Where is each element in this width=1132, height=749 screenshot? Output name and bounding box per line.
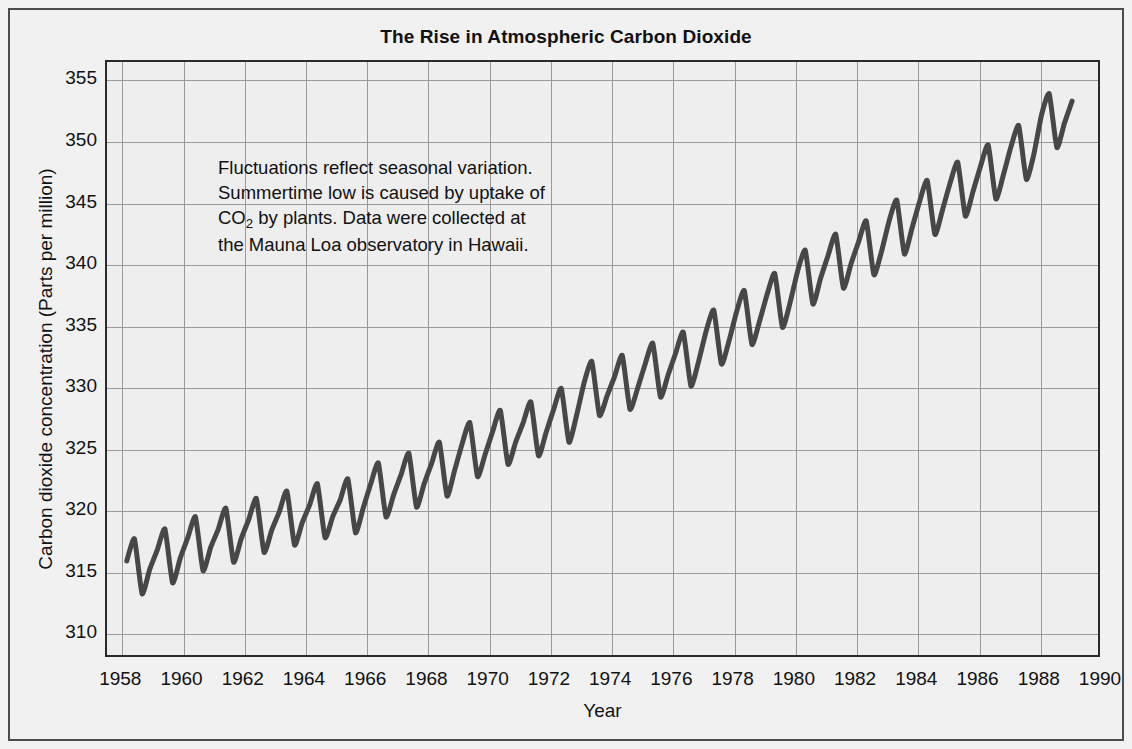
plot-area	[105, 60, 1100, 657]
y-axis-tick-labels: 310315320325330335340345350355	[0, 60, 97, 657]
y-tick-label: 345	[11, 191, 97, 213]
y-tick-label: 310	[11, 621, 97, 643]
x-tick-label: 1968	[405, 668, 447, 690]
x-tick-label: 1958	[99, 668, 141, 690]
annotation-line-3-rest: by plants. Data were collected at	[253, 207, 526, 228]
x-axis-tick-labels: 1958196019621964196619681970197219741976…	[105, 668, 1100, 694]
chart-annotation: Fluctuations reflect seasonal variation.…	[218, 155, 545, 257]
annotation-co2-text: CO	[218, 207, 246, 228]
x-tick-label: 1978	[711, 668, 753, 690]
annotation-co2-subscript: 2	[246, 216, 253, 231]
annotation-line-3: CO2 by plants. Data were collected at	[218, 205, 545, 232]
x-tick-label: 1984	[895, 668, 937, 690]
x-tick-label: 1982	[834, 668, 876, 690]
x-tick-label: 1972	[528, 668, 570, 690]
y-tick-label: 340	[11, 252, 97, 274]
y-tick-label: 320	[11, 498, 97, 520]
x-tick-label: 1988	[1018, 668, 1060, 690]
y-tick-label: 330	[11, 375, 97, 397]
figure-root: The Rise in Atmospheric Carbon Dioxide C…	[0, 0, 1132, 749]
y-tick-label: 350	[11, 129, 97, 151]
x-tick-label: 1986	[956, 668, 998, 690]
x-tick-label: 1960	[160, 668, 202, 690]
data-series-line	[107, 62, 1098, 655]
x-tick-label: 1976	[650, 668, 692, 690]
annotation-line-4: the Mauna Loa observatory in Hawaii.	[218, 232, 545, 257]
y-tick-label: 335	[11, 314, 97, 336]
y-tick-label: 325	[11, 437, 97, 459]
x-tick-label: 1980	[773, 668, 815, 690]
y-tick-label: 315	[11, 560, 97, 582]
x-tick-label: 1962	[222, 668, 264, 690]
x-axis-label: Year	[105, 700, 1100, 722]
y-tick-label: 355	[11, 67, 97, 89]
annotation-line-1: Fluctuations reflect seasonal variation.	[218, 155, 545, 180]
x-tick-label: 1966	[344, 668, 386, 690]
x-tick-label: 1970	[467, 668, 509, 690]
x-tick-label: 1974	[589, 668, 631, 690]
x-tick-label: 1990	[1079, 668, 1121, 690]
x-tick-label: 1964	[283, 668, 325, 690]
annotation-line-2: Summertime low is caused by uptake of	[218, 180, 545, 205]
chart-title: The Rise in Atmospheric Carbon Dioxide	[0, 26, 1132, 48]
